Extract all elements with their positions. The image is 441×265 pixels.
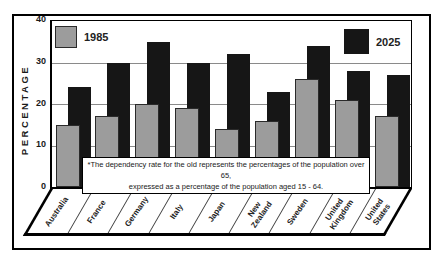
- y-tick-label: 30: [18, 56, 46, 66]
- y-tick-label: 40: [18, 14, 46, 24]
- legend-label-2025: 2025: [376, 36, 400, 48]
- note-line-1: *The dependency rate for the old represe…: [85, 159, 367, 181]
- y-tick-label: 0: [18, 181, 46, 191]
- legend-item-2025: 2025: [344, 29, 400, 54]
- note-box: *The dependency rate for the old represe…: [82, 157, 370, 194]
- legend-item-1985: 1985: [55, 26, 108, 48]
- y-tick-label: 10: [18, 139, 46, 149]
- plot-area: 1985 2025 *The dependency rate for the o…: [50, 20, 412, 189]
- legend-swatch-2025: [344, 29, 369, 54]
- legend-swatch-1985: [55, 26, 77, 48]
- dependency-rate-chart: PERCENTAGE 010203040 1985 2025 *The depe…: [0, 0, 441, 265]
- note-line-2: expressed as a percentage of the populat…: [85, 181, 367, 192]
- legend-label-1985: 1985: [84, 31, 108, 43]
- y-tick-label: 20: [18, 98, 46, 108]
